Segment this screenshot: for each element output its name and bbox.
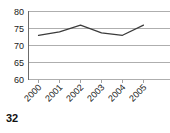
y-tick-labels: 80 75 70 65 60 xyxy=(14,7,24,85)
y-tick-label-65: 65 xyxy=(14,58,24,68)
x-tickmarks xyxy=(39,80,144,83)
y-tick-label-60: 60 xyxy=(14,75,24,85)
y-tick-label-80: 80 xyxy=(14,7,24,17)
line-chart: 80 75 70 65 60 2000 2001 2002 2003 2004 … xyxy=(0,0,170,133)
gridlines xyxy=(28,12,170,80)
y-tick-label-70: 70 xyxy=(14,41,24,51)
x-tick-label-2003: 2003 xyxy=(85,82,106,103)
x-tick-labels: 2000 2001 2002 2003 2004 2005 xyxy=(22,82,148,103)
chart-figure: 80 75 70 65 60 2000 2001 2002 2003 2004 … xyxy=(0,0,170,133)
data-series-line xyxy=(39,25,144,35)
y-tick-label-75: 75 xyxy=(14,24,24,34)
x-tick-label-2005: 2005 xyxy=(127,82,148,103)
x-tick-label-2000: 2000 xyxy=(22,82,43,103)
x-tick-label-2004: 2004 xyxy=(106,82,127,103)
x-tick-label-2001: 2001 xyxy=(43,82,64,103)
x-tick-label-2002: 2002 xyxy=(64,82,85,103)
page-number: 32 xyxy=(6,112,18,124)
